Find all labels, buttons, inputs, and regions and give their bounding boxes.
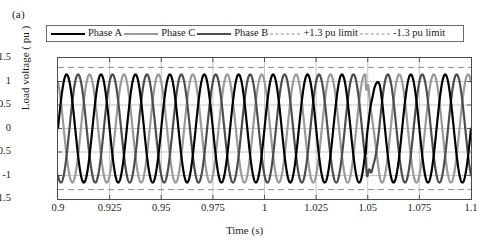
legend-item-phase-b: Phase B xyxy=(197,26,270,41)
x-tick-label: 0.9 xyxy=(36,203,80,214)
waveform-plot xyxy=(58,58,471,199)
x-tick-label: 0.975 xyxy=(191,203,235,214)
legend-label: Phase A xyxy=(85,28,124,39)
x-tick-label: 1.025 xyxy=(294,203,338,214)
line-swatch-dashed-icon xyxy=(270,29,300,39)
x-axis-title: Time (s) xyxy=(0,224,489,236)
line-swatch-solid-icon xyxy=(124,29,158,39)
y-tick-label: 0 xyxy=(0,123,11,134)
legend-item-lower-limit: -1.3 pu limit xyxy=(360,26,447,41)
legend-item-upper-limit: +1.3 pu limit xyxy=(270,26,360,41)
x-tick-label: 1 xyxy=(243,203,287,214)
x-tick-label: 1.05 xyxy=(346,203,390,214)
y-tick-label: -1 xyxy=(0,170,11,181)
legend-label: -1.3 pu limit xyxy=(390,28,447,39)
legend-label: Phase B xyxy=(231,28,270,39)
plot-area xyxy=(57,57,472,200)
y-tick-label: 1 xyxy=(0,76,11,87)
x-tick-label: 1.075 xyxy=(397,203,441,214)
y-tick-label: -0.5 xyxy=(0,146,11,157)
line-swatch-solid-icon xyxy=(51,29,85,39)
chart-legend: Phase A Phase C Phase B +1.3 pu limit -1… xyxy=(46,25,464,42)
y-tick-label: 1.5 xyxy=(0,52,11,63)
y-axis-title: Load voltage ( pu ) xyxy=(19,0,31,143)
x-tick-label: 1.1 xyxy=(449,203,489,214)
legend-item-phase-a: Phase A xyxy=(51,26,124,41)
legend-item-phase-c: Phase C xyxy=(124,26,197,41)
line-swatch-dashed-icon xyxy=(360,29,390,39)
legend-label: Phase C xyxy=(158,28,197,39)
figure-panel-a: (a) Phase A Phase C Phase B +1.3 pu limi… xyxy=(0,0,489,249)
x-tick-label: 0.925 xyxy=(88,203,132,214)
y-tick-label: -1.5 xyxy=(0,193,11,204)
x-tick-label: 0.95 xyxy=(139,203,183,214)
y-tick-label: 0.5 xyxy=(0,99,11,110)
line-swatch-solid-icon xyxy=(197,29,231,39)
legend-label: +1.3 pu limit xyxy=(300,28,360,39)
